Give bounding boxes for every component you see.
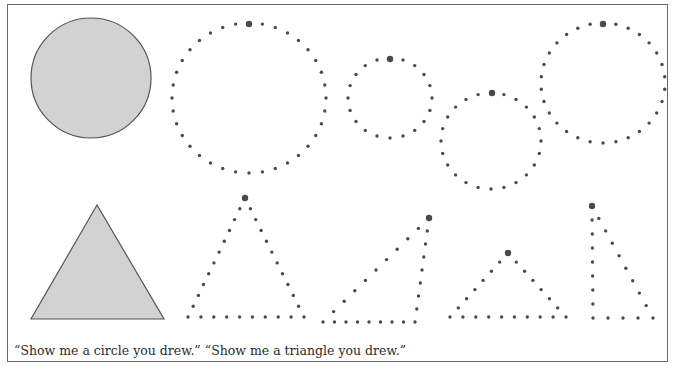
trace-dot <box>234 22 237 25</box>
trace-dot <box>261 22 264 25</box>
trace-dot <box>277 315 280 318</box>
trace-dot <box>591 246 594 249</box>
trace-dot <box>624 267 627 270</box>
trace-dot <box>223 240 226 243</box>
trace-dot <box>523 270 526 273</box>
trace-dot <box>320 71 323 74</box>
trace-dot <box>617 254 620 257</box>
trace-dot <box>198 154 201 157</box>
trace-dot <box>306 145 309 148</box>
trace-dot <box>379 320 382 323</box>
trace-dot <box>181 134 184 137</box>
trace-dot <box>332 310 335 313</box>
trace-dot <box>321 320 324 323</box>
trace-dot <box>591 232 594 235</box>
trace-dot <box>420 268 423 271</box>
trace-dot <box>202 283 205 286</box>
trace-dot <box>597 217 600 220</box>
trace-dot <box>348 84 351 87</box>
trace-dot <box>426 229 429 232</box>
trace-dot <box>286 31 289 34</box>
trace-dot <box>476 186 479 189</box>
trace-dot <box>364 129 367 132</box>
trace-dot <box>473 288 476 291</box>
trace-dot <box>188 48 191 51</box>
trace-dot <box>207 272 210 275</box>
trace-dot <box>264 315 267 318</box>
trace-dot <box>413 320 416 323</box>
trace-dot <box>498 260 501 263</box>
trace-dot <box>254 218 257 221</box>
trace-dot <box>364 279 367 282</box>
trace-dot <box>533 163 536 166</box>
trace-dot <box>354 73 357 76</box>
trace-dot <box>538 127 541 130</box>
trace-dot <box>454 105 457 108</box>
trace-dot <box>354 120 357 123</box>
trace-dot <box>233 218 236 221</box>
start-dot <box>600 21 606 27</box>
trace-dot <box>551 315 554 318</box>
shapes-illustration <box>0 0 682 371</box>
trace-dot <box>390 320 393 323</box>
trace-dot <box>172 109 175 112</box>
trace-dot <box>367 320 370 323</box>
trace-dot <box>464 181 467 184</box>
trace-dot <box>465 297 468 300</box>
trace-dot <box>199 315 202 318</box>
trace-dot <box>281 272 284 275</box>
trace-dot <box>441 127 444 130</box>
trace-dot <box>540 88 543 91</box>
trace-dot <box>221 26 224 29</box>
trace-dot <box>274 26 277 29</box>
trace-dot <box>228 229 231 232</box>
trace-dot <box>209 161 212 164</box>
trace-dot <box>513 315 516 318</box>
trace-dot <box>238 315 241 318</box>
trace-dot <box>476 93 479 96</box>
trace-dot <box>564 315 567 318</box>
trace-dot <box>601 141 604 144</box>
trace-dot <box>314 134 317 137</box>
trace-dot <box>344 320 347 323</box>
trace-dot <box>320 122 323 125</box>
trace-dot <box>265 240 268 243</box>
start-dot <box>242 195 248 201</box>
trace-dot <box>556 306 559 309</box>
trace-dot <box>542 63 545 66</box>
trace-dot <box>314 59 317 62</box>
trace-dot <box>170 96 173 99</box>
trace-dot <box>525 173 528 176</box>
trace-dot <box>419 281 422 284</box>
trace-dot <box>514 181 517 184</box>
trace-dot <box>221 167 224 170</box>
trace-dot <box>526 315 529 318</box>
trace-dot <box>461 315 464 318</box>
trace-dot <box>286 161 289 164</box>
start-dot <box>505 250 511 256</box>
figure-caption: “Show me a circle you drew.” “Show me a … <box>14 343 406 358</box>
trace-dot <box>660 63 663 66</box>
trace-dot <box>539 288 542 291</box>
dotted-circle-3 <box>439 90 542 191</box>
trace-dot <box>531 279 534 282</box>
trace-dot <box>539 315 542 318</box>
trace-dot <box>457 306 460 309</box>
start-dot <box>489 90 495 96</box>
trace-dot <box>638 33 641 36</box>
trace-dot <box>441 152 444 155</box>
trace-dot <box>515 260 518 263</box>
trace-dot <box>375 134 378 137</box>
trace-dot <box>576 136 579 139</box>
trace-dot <box>588 140 591 143</box>
trace-dot <box>212 261 215 264</box>
trace-dot <box>251 315 254 318</box>
trace-dot <box>663 88 666 91</box>
trace-dot <box>364 64 367 67</box>
trace-dot <box>428 109 431 112</box>
trace-dot <box>385 258 388 261</box>
trace-dot <box>375 58 378 61</box>
trace-dot <box>192 305 195 308</box>
trace-dot <box>292 294 295 297</box>
trace-dot <box>302 315 305 318</box>
